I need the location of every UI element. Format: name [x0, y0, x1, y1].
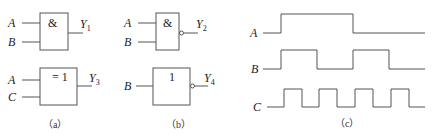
input-label: B — [124, 79, 132, 93]
output-label: Y3 — [89, 71, 100, 87]
panel-c: A B C （c） — [249, 14, 425, 129]
caption-b: （b） — [166, 119, 191, 130]
output-label: Y1 — [80, 17, 91, 33]
gate-symbol: 1 — [169, 70, 175, 84]
gate-symbol: = 1 — [52, 70, 68, 84]
signal-label: C — [253, 100, 262, 114]
inversion-bubble — [180, 31, 184, 35]
waveform-b: B — [251, 50, 425, 76]
output-label: Y2 — [196, 17, 207, 33]
caption-a: （a） — [43, 119, 67, 130]
inversion-bubble — [191, 84, 195, 88]
input-label: A — [7, 16, 16, 30]
caption-c: （c） — [335, 118, 359, 129]
nand-gate-y2: & A B Y2 — [123, 13, 207, 50]
input-label: A — [123, 16, 132, 30]
panel-b: & A B Y2 1 B Y4 （b） — [123, 13, 215, 130]
input-label: B — [124, 35, 132, 49]
xor-gate-y3: = 1 A C Y3 — [7, 68, 100, 105]
waveform-c: C — [253, 89, 425, 114]
input-label: B — [8, 35, 16, 49]
gate-symbol: & — [163, 16, 173, 30]
output-label: Y4 — [204, 71, 215, 87]
gate-symbol: & — [48, 16, 58, 30]
waveform-a: A — [249, 14, 425, 40]
signal-label: B — [251, 62, 259, 76]
panel-a: & A B Y1 = 1 A C Y3 （a） — [7, 13, 100, 130]
logic-diagram: & A B Y1 = 1 A C Y3 （a） & A B Y2 — [0, 0, 434, 137]
and-gate-y1: & A B Y1 — [7, 13, 91, 50]
input-label: C — [8, 90, 17, 104]
input-label: A — [7, 73, 16, 87]
nor-gate-y4: 1 B Y4 — [124, 68, 215, 105]
signal-label: A — [249, 26, 258, 40]
